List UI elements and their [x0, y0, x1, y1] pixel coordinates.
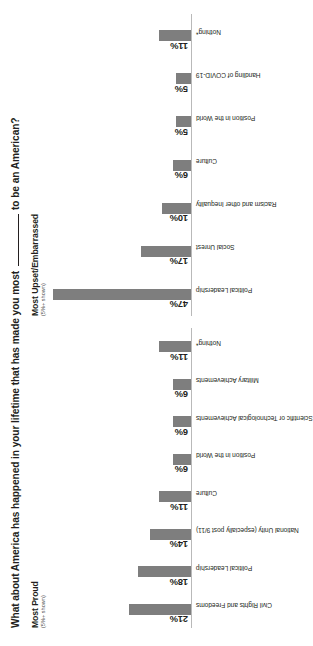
category-label: Position in the World: [196, 452, 255, 459]
bar: [162, 203, 191, 214]
bar-value-label: 11%: [170, 502, 188, 513]
chart-panel-most-proud: Most Proud (5%+ shown) 21% 18% 14%: [30, 328, 266, 628]
bar-slot: 6%: [44, 366, 191, 404]
bar-value-label: 14%: [170, 539, 188, 550]
cat-slot: Handling of COVID-19: [192, 57, 266, 100]
cat-slot: Racism and other Inequality: [192, 187, 266, 230]
bar-slot: 10%: [44, 187, 191, 230]
plot-area-most-proud: 21% 18% 14% 11%: [44, 328, 192, 628]
bar-slot: 11%: [44, 478, 191, 516]
bar-slot: 11%: [44, 328, 191, 366]
page-title: What about America has happened in your …: [9, 14, 21, 628]
panel-title: Most Proud: [30, 512, 40, 628]
bar-value-label: 5%: [175, 127, 188, 138]
bar-slot: 47%: [44, 273, 191, 316]
bar: [173, 416, 191, 427]
cat-slot: Military Achievements: [192, 366, 266, 404]
page-title-part1: What about America has happened in your …: [10, 271, 21, 628]
bar-value-label: 6%: [175, 464, 188, 475]
category-label: Social Unrest: [196, 244, 235, 251]
cat-slot: Culture: [192, 143, 266, 186]
bar-value-label: 10%: [170, 213, 188, 224]
bar: [173, 160, 191, 171]
category-label: Political Leadership: [196, 565, 252, 572]
chart-poster: What about America has happened in your …: [0, 0, 271, 646]
panel-title: Most Upset/Embarrassed: [30, 200, 40, 316]
bar-value-label: 11%: [170, 41, 188, 52]
bar: [176, 116, 191, 127]
cat-slot: Scientific or Technological Achievements: [192, 403, 266, 441]
cat-slot: Nothing*: [192, 328, 266, 366]
cat-slot: Political Leadership: [192, 273, 266, 316]
bar: [159, 30, 191, 41]
bar-slot: 5%: [44, 100, 191, 143]
bar-value-label: 47%: [170, 299, 188, 310]
category-label: Scientific or Technological Achievements: [196, 415, 271, 422]
bar-value-label: 11%: [170, 352, 188, 363]
bar-slot: 17%: [44, 230, 191, 273]
category-label: Political Leadership: [196, 287, 252, 294]
plot-area-most-upset: 47% 17% 10% 6%: [44, 14, 192, 316]
category-label: Nothing*: [196, 29, 221, 36]
bar-value-label: 21%: [170, 614, 188, 625]
bar-slot: 21%: [44, 591, 191, 629]
cat-slot: National Unity (especially post 9/11): [192, 516, 266, 554]
bar-slot: 14%: [44, 516, 191, 554]
bar: [138, 566, 191, 577]
cat-slot: Nothing*: [192, 14, 266, 57]
bar-value-label: 5%: [175, 84, 188, 95]
category-label: National Unity (especially post 9/11): [196, 527, 271, 534]
bar-slot: 6%: [44, 403, 191, 441]
bar-slot: 18%: [44, 553, 191, 591]
bar-slot: 11%: [44, 14, 191, 57]
bar-value-label: 18%: [170, 577, 188, 588]
category-labels-most-proud: Civil Rights and Freedoms Political Lead…: [192, 328, 266, 628]
category-label: Military Achievements: [196, 377, 259, 384]
bar-slot: 6%: [44, 441, 191, 479]
category-label: Culture: [196, 490, 217, 497]
cat-slot: Social Unrest: [192, 230, 266, 273]
bar-slot: 5%: [44, 57, 191, 100]
bar-slot: 6%: [44, 143, 191, 186]
category-label: Position in the World: [196, 115, 255, 122]
panel-divider: [34, 323, 214, 324]
bar-value-label: 17%: [170, 256, 188, 267]
bar-value-label: 6%: [175, 427, 188, 438]
cat-slot: Political Leadership: [192, 553, 266, 591]
category-label: Racism and other Inequality: [196, 201, 271, 208]
rotated-canvas: What about America has happened in your …: [0, 0, 271, 646]
cat-slot: Position in the World: [192, 441, 266, 479]
category-labels-most-upset: Political Leadership Social Unrest Racis…: [192, 14, 266, 316]
category-label: Handling of COVID-19: [196, 72, 261, 79]
cat-slot: Position in the World: [192, 100, 266, 143]
category-label: Civil Rights and Freedoms: [196, 602, 271, 609]
cat-slot: Culture: [192, 478, 266, 516]
page-title-blank: [9, 214, 19, 266]
bar: [159, 341, 191, 352]
bar-value-label: 6%: [175, 170, 188, 181]
page-title-part2: to be an American?: [10, 118, 21, 210]
chart-panel-most-upset: Most Upset/Embarrassed (5%+ shown) 47% 1…: [30, 14, 266, 316]
bar-group-most-proud: 21% 18% 14% 11%: [44, 328, 191, 628]
cat-slot: Civil Rights and Freedoms: [192, 591, 266, 629]
bar: [159, 491, 191, 502]
category-label: Nothing*: [196, 340, 221, 347]
category-label: Culture: [196, 158, 217, 165]
bar-value-label: 6%: [175, 389, 188, 400]
bar: [176, 73, 191, 84]
bar-group-most-upset: 47% 17% 10% 6%: [44, 14, 191, 316]
